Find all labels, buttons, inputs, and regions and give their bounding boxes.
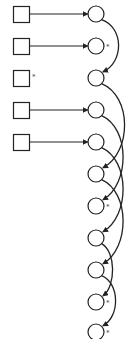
pointer-arrows	[29, 14, 88, 142]
circle-mark-10: *	[106, 300, 110, 307]
square-node-3	[14, 71, 30, 87]
link-arcs	[102, 20, 125, 326]
circle-mark-11: *	[106, 330, 110, 337]
circle-node-11	[88, 324, 104, 339]
circle-mark-7: *	[106, 204, 110, 211]
circle-node-10	[88, 294, 104, 310]
square-mark-3: *	[32, 74, 36, 81]
circle-node-5	[88, 134, 104, 150]
square-node-4	[14, 103, 30, 119]
circle-node-6	[88, 166, 104, 182]
square-node-1	[14, 7, 30, 23]
circle-node-1	[88, 6, 104, 22]
circle-node-9	[88, 262, 104, 278]
circle-node-2	[88, 38, 104, 54]
circle-node-8	[88, 230, 104, 246]
circle-node-7	[88, 198, 104, 214]
circle-mark-2: *	[106, 44, 110, 51]
circle-node-4	[88, 102, 104, 118]
linked-list-diagram	[0, 0, 131, 339]
square-node-5	[14, 135, 30, 151]
square-node-2	[14, 39, 30, 55]
circle-node-3	[88, 70, 104, 86]
source-nodes	[14, 7, 30, 151]
list-nodes	[88, 6, 104, 339]
